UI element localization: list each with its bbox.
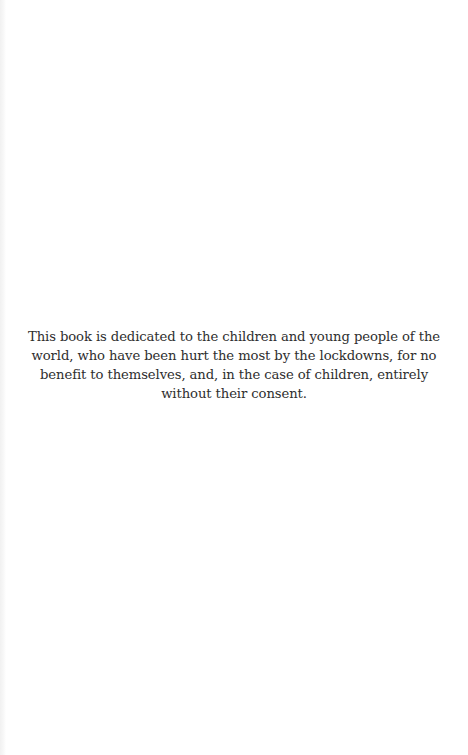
- dedication-line-4: without their consent.: [20, 384, 448, 403]
- dedication-text: This book is dedicated to the children a…: [20, 327, 448, 403]
- dedication-line-3: benefit to themselves, and, in the case …: [20, 365, 448, 384]
- dedication-line-2: world, who have been hurt the most by th…: [20, 346, 448, 365]
- page-edge-shadow: [0, 0, 6, 755]
- dedication-line-1: This book is dedicated to the children a…: [20, 327, 448, 346]
- book-page: This book is dedicated to the children a…: [0, 0, 468, 755]
